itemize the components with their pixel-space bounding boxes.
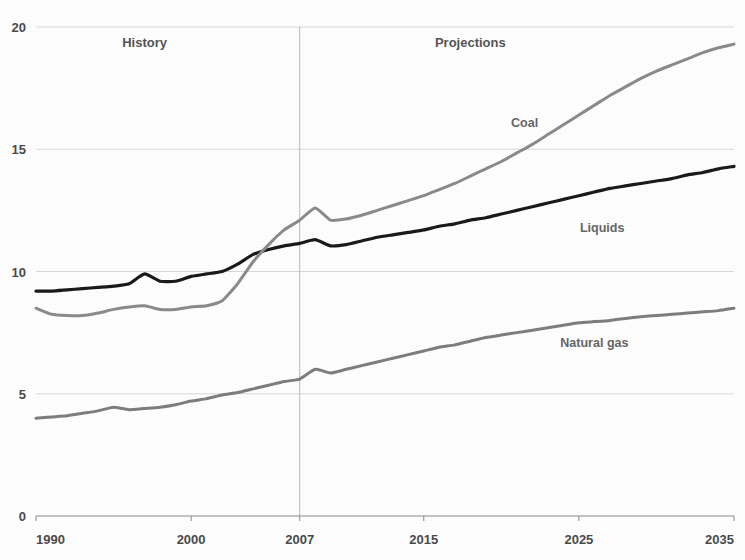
x-tick-label-2025: 2025 — [564, 532, 593, 547]
x-axis-tick-labels: 199020002007201520252035 — [36, 532, 734, 547]
y-tick-label-20: 20 — [12, 20, 26, 35]
y-axis-tick-labels: 05101520 — [12, 20, 26, 524]
axes — [36, 516, 734, 521]
y-tick-label-5: 5 — [19, 387, 26, 402]
line-chart-canvas: 05101520 199020002007201520252035 Histor… — [0, 0, 745, 560]
gridlines — [36, 27, 734, 394]
x-tick-label-1990: 1990 — [36, 532, 65, 547]
annotation-projections: Projections — [435, 35, 506, 50]
annotation-coal: Coal — [511, 116, 538, 130]
x-tick-label-2015: 2015 — [409, 532, 438, 547]
chart-annotations: HistoryProjectionsCoalLiquidsNatural gas — [122, 35, 628, 351]
series-lines — [36, 44, 734, 418]
chart-figure: 05101520 199020002007201520252035 Histor… — [0, 0, 745, 560]
x-tick-label-2000: 2000 — [177, 532, 206, 547]
annotation-natural-gas: Natural gas — [560, 336, 628, 350]
y-tick-label-15: 15 — [12, 142, 26, 157]
y-tick-label-0: 0 — [19, 509, 26, 524]
annotation-liquids: Liquids — [580, 221, 624, 235]
x-tick-label-2007: 2007 — [285, 532, 314, 547]
series-line-liquids — [36, 166, 734, 291]
series-line-natural-gas — [36, 308, 734, 418]
x-tick-label-2035: 2035 — [705, 532, 734, 547]
y-tick-label-10: 10 — [12, 265, 26, 280]
annotation-history: History — [122, 35, 168, 50]
